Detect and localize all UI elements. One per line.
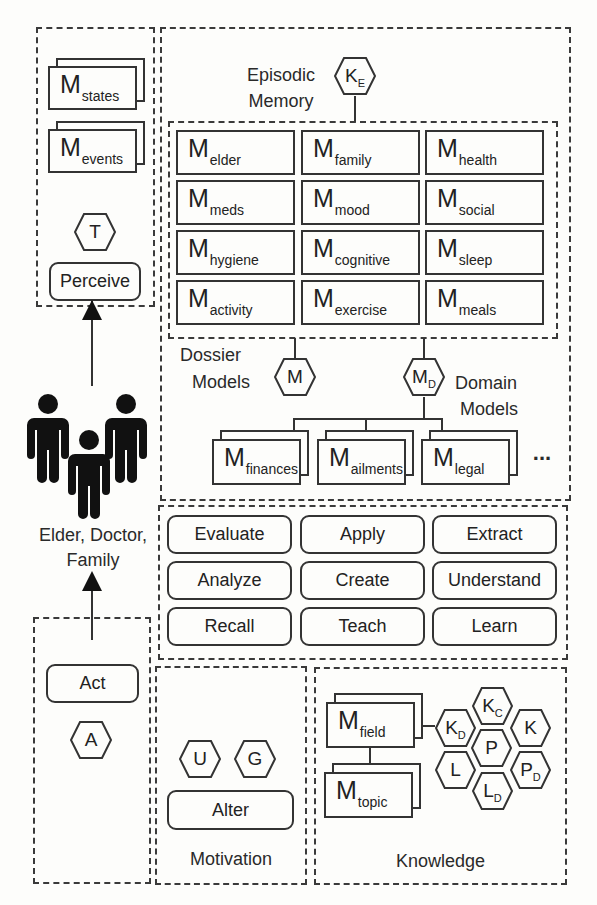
episodic-memory-title-line1: Episodic [238,62,324,88]
skill-create-button[interactable]: Create [300,561,425,600]
ld-hexagon-icon: LD [471,771,514,811]
dossier-model-meals[interactable]: Mmeals [425,280,544,325]
dossier-model-sleep[interactable]: Msleep [425,230,544,275]
perceive-button[interactable]: Perceive [49,262,141,301]
domain-connector-top [423,338,425,358]
episodic-memory-title-line2: Memory [238,88,324,114]
a-hexagon-icon: A [69,720,113,760]
ke-hexagon-icon: KE [333,56,377,96]
domain-connector-legal [441,418,443,430]
dossier-model-meds[interactable]: Mmeds [176,180,295,225]
motivation-label: Motivation [155,846,307,872]
dossier-model-elder[interactable]: Melder [176,130,295,175]
arrow-up-act-icon [82,571,102,591]
domain-connector-ailments [365,418,367,430]
u-hexagon-icon: U [178,739,222,779]
kc-hexagon-icon: KC [471,686,514,726]
field-topic-connector [369,746,371,764]
actors-label-line2: Family [20,547,166,573]
md-hexagon-icon: MD [402,357,446,397]
skill-teach-button[interactable]: Teach [300,607,425,646]
domain-connector-trunk [423,397,425,419]
domain-models-label-line2: Models [460,396,550,422]
dossier-model-family[interactable]: Mfamily [301,130,420,175]
dossier-model-mood[interactable]: Mmood [301,180,420,225]
people-group-icon [24,390,152,520]
dossier-model-health[interactable]: Mhealth [425,130,544,175]
alter-button[interactable]: Alter [167,790,294,830]
skill-recall-button[interactable]: Recall [167,607,292,646]
dossier-models-label-line1: Dossier [180,342,270,368]
domain-models-label-line1: Domain [455,370,545,396]
skill-learn-button[interactable]: Learn [432,607,557,646]
dossier-connector [294,338,296,358]
ke-connector [354,96,356,122]
domain-models-ellipsis: ... [527,440,557,466]
knowledge-label: Knowledge [314,848,567,874]
skill-understand-button[interactable]: Understand [432,561,557,600]
g-hexagon-icon: G [233,739,277,779]
dossier-model-activity[interactable]: Mactivity [176,280,295,325]
dossier-models-label-line2: Models [192,369,282,395]
skill-extract-button[interactable]: Extract [432,515,557,554]
act-button[interactable]: Act [46,664,139,703]
dossier-model-social[interactable]: Msocial [425,180,544,225]
k-hexagon-icon: K [509,708,552,748]
domain-connector-finances [293,418,295,430]
dossier-model-cognitive[interactable]: Mcognitive [301,230,420,275]
actors-label-line1: Elder, Doctor, [20,522,166,548]
dossier-model-exercise[interactable]: Mexercise [301,280,420,325]
dossier-model-hygiene[interactable]: Mhygiene [176,230,295,275]
domain-connector-bar [293,418,443,420]
skill-evaluate-button[interactable]: Evaluate [167,515,292,554]
skill-apply-button[interactable]: Apply [300,515,425,554]
skill-analyze-button[interactable]: Analyze [167,561,292,600]
pd-hexagon-icon: PD [509,750,552,790]
arrow-up-perceive-icon [82,300,102,320]
t-hexagon-icon: T [73,212,117,252]
